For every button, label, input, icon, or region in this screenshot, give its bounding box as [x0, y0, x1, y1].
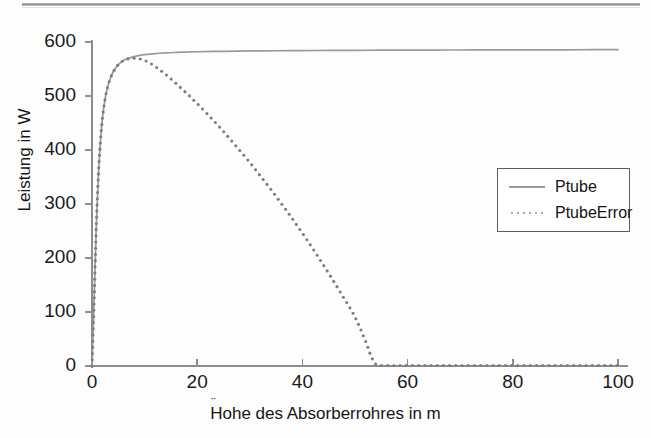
- data-point-marker: [348, 306, 351, 309]
- data-point-marker: [91, 340, 94, 343]
- data-point-marker: [448, 364, 451, 367]
- data-point-marker: [205, 112, 208, 115]
- data-point-marker: [554, 364, 557, 367]
- data-point-marker: [547, 364, 550, 367]
- data-point-marker: [269, 188, 272, 191]
- data-point-marker: [591, 364, 594, 367]
- data-point-marker: [94, 247, 97, 250]
- data-point-marker: [541, 364, 544, 367]
- data-point-marker: [155, 66, 158, 69]
- data-point-marker: [93, 296, 96, 299]
- data-point-marker: [442, 364, 445, 367]
- data-point-marker: [121, 60, 124, 63]
- data-point-marker: [578, 364, 581, 367]
- data-point-marker: [560, 364, 563, 367]
- data-point-marker: [322, 264, 325, 267]
- dotted-line-sample-icon: [507, 207, 547, 219]
- data-point-marker: [226, 135, 229, 138]
- data-point-marker: [96, 191, 99, 194]
- data-point-marker: [95, 222, 98, 225]
- data-point-marker: [288, 213, 291, 216]
- data-point-marker: [535, 364, 538, 367]
- data-point-marker: [566, 364, 569, 367]
- data-point-marker: [100, 129, 103, 132]
- data-point-marker: [160, 70, 163, 73]
- data-point-marker: [113, 69, 116, 72]
- data-point-marker: [96, 197, 99, 200]
- data-point-marker: [339, 290, 342, 293]
- data-point-marker: [516, 364, 519, 367]
- data-point-marker: [110, 74, 113, 77]
- data-point-marker: [139, 57, 142, 60]
- data-point-marker: [106, 86, 109, 89]
- data-point-marker: [298, 228, 301, 231]
- data-point-marker: [165, 74, 168, 77]
- data-point-marker: [498, 364, 501, 367]
- data-point-marker: [93, 290, 96, 293]
- data-point-marker: [616, 364, 619, 367]
- data-point-marker: [250, 163, 253, 166]
- data-point-marker: [170, 78, 173, 81]
- data-point-marker: [430, 364, 433, 367]
- data-point-marker: [94, 259, 97, 262]
- data-point-marker: [97, 179, 100, 182]
- data-point-marker: [116, 64, 119, 67]
- data-point-marker: [417, 364, 420, 367]
- data-point-marker: [258, 173, 261, 176]
- data-point-marker: [99, 141, 102, 144]
- data-point-marker: [99, 135, 102, 138]
- data-point-marker: [380, 364, 383, 367]
- data-point-marker: [485, 364, 488, 367]
- data-point-marker: [332, 280, 335, 283]
- data-point-marker: [234, 144, 237, 147]
- data-point-marker: [102, 104, 105, 107]
- data-point-marker: [585, 364, 588, 367]
- data-point-marker: [94, 234, 97, 237]
- data-point-marker: [126, 57, 129, 60]
- data-point-marker: [364, 340, 367, 343]
- data-point-marker: [97, 172, 100, 175]
- data-point-marker: [222, 130, 225, 133]
- solid-line-sample-icon: [507, 181, 547, 193]
- data-point-marker: [92, 309, 95, 312]
- data-point-marker: [242, 154, 245, 157]
- data-point-marker: [597, 364, 600, 367]
- data-point-marker: [174, 82, 177, 85]
- data-point-marker: [374, 362, 377, 365]
- legend-label-ptubeerror: PtubeError: [555, 204, 632, 222]
- data-point-marker: [392, 364, 395, 367]
- data-point-marker: [302, 233, 305, 236]
- data-point-marker: [291, 218, 294, 221]
- data-point-marker: [98, 160, 101, 163]
- data-point-marker: [92, 302, 95, 305]
- data-point-marker: [335, 285, 338, 288]
- data-point-marker: [386, 364, 389, 367]
- data-point-marker: [357, 323, 360, 326]
- data-point-marker: [436, 364, 439, 367]
- data-point-marker: [284, 208, 287, 211]
- data-point-marker: [94, 253, 97, 256]
- data-point-marker: [201, 107, 204, 110]
- data-point-marker: [359, 328, 362, 331]
- data-point-marker: [265, 183, 268, 186]
- data-point-marker: [309, 243, 312, 246]
- data-point-marker: [197, 103, 200, 106]
- data-point-marker: [329, 275, 332, 278]
- data-point-marker: [523, 364, 526, 367]
- data-point-marker: [366, 346, 369, 349]
- data-point-marker: [92, 315, 95, 318]
- data-point-marker: [305, 238, 308, 241]
- data-point-marker: [192, 99, 195, 102]
- data-point-marker: [368, 352, 371, 355]
- data-point-marker: [467, 364, 470, 367]
- legend-entry-ptubeerror: PtubeError: [498, 200, 629, 226]
- data-point-marker: [399, 364, 402, 367]
- data-point-marker: [510, 364, 513, 367]
- data-point-marker: [96, 203, 99, 206]
- data-point-marker: [405, 364, 408, 367]
- data-point-marker: [102, 111, 105, 114]
- data-point-marker: [218, 126, 221, 129]
- data-point-marker: [90, 364, 93, 367]
- data-point-marker: [572, 364, 575, 367]
- data-point-marker: [423, 364, 426, 367]
